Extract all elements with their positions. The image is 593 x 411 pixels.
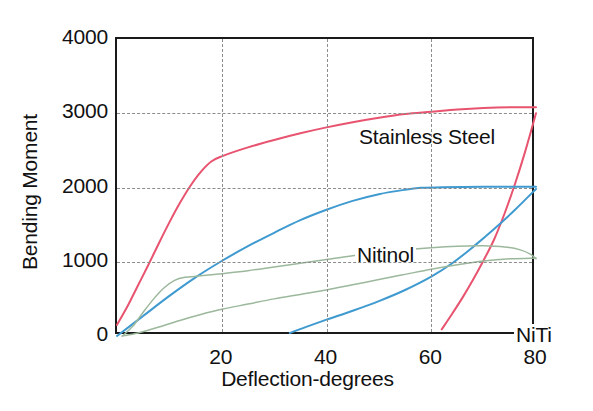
plot-area: Stainless Steel Nitinol NiTi xyxy=(115,37,534,334)
y-tick-3000: 3000 xyxy=(62,100,108,121)
x-tick-40: 40 xyxy=(314,346,337,367)
x-tick-20: 20 xyxy=(209,346,232,367)
y-tick-2000: 2000 xyxy=(62,175,108,196)
curve-niti-lower xyxy=(122,258,536,336)
x-axis-tick-labels: 20406080 xyxy=(0,340,593,370)
chart-figure: 40003000200010000 20406080 Bending Momen… xyxy=(0,0,593,411)
y-tick-4000: 4000 xyxy=(62,26,108,47)
gridline-vertical-60 xyxy=(431,39,432,332)
y-tick-1000: 1000 xyxy=(62,249,108,270)
x-axis-title-text: Deflection-degrees xyxy=(221,367,394,390)
curve-niti-upper xyxy=(122,246,536,336)
x-axis-title: Deflection-degrees xyxy=(0,367,593,391)
gridline-vertical-40 xyxy=(327,39,328,332)
gridline-vertical-20 xyxy=(222,39,223,332)
series-label-stainless-steel: Stainless Steel xyxy=(357,126,497,147)
y-axis-title-text: Bending Moment xyxy=(18,114,41,270)
gridline-horizontal-1000 xyxy=(117,262,532,263)
gridline-horizontal-2000 xyxy=(117,188,532,189)
y-axis-title: Bending Moment xyxy=(18,92,42,292)
x-tick-80: 80 xyxy=(524,346,547,367)
x-tick-60: 60 xyxy=(419,346,442,367)
gridline-horizontal-3000 xyxy=(117,113,532,114)
series-label-niti: NiTi xyxy=(514,324,554,345)
